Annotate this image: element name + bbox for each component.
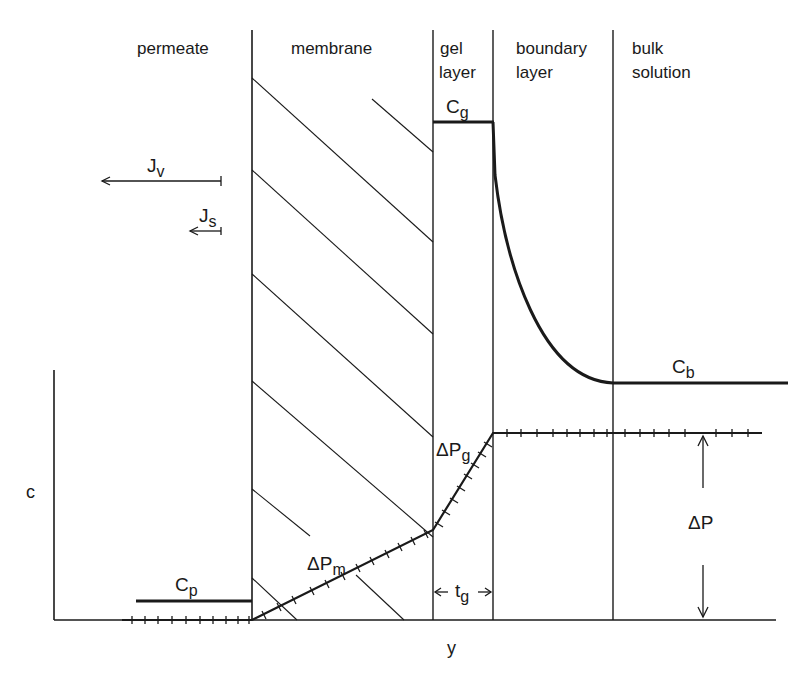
label-gel: gel	[440, 38, 463, 61]
label-permeate: permeate	[137, 38, 209, 61]
axis-label-y: y	[447, 636, 456, 660]
label-bulk-solution: solution	[632, 62, 691, 85]
axis-label-c: c	[26, 480, 35, 504]
symbol-jv: Jv	[147, 155, 165, 181]
symbol-delta-pg: ΔPg	[436, 439, 470, 465]
symbol-cg: Cg	[446, 96, 469, 122]
symbol-cb: Cb	[672, 356, 695, 382]
symbol-cp: Cp	[175, 574, 198, 600]
label-gel-layer: layer	[439, 62, 476, 85]
label-bulk: bulk	[632, 38, 663, 61]
symbol-delta-p: ΔP	[688, 512, 713, 534]
label-boundary: boundary	[516, 38, 587, 61]
membrane-hatching	[252, 78, 433, 620]
symbol-delta-pm: ΔPm	[307, 553, 346, 579]
label-boundary-layer: layer	[516, 62, 553, 85]
boundary-layer-curve	[493, 122, 613, 383]
concentration-pressure-diagram	[0, 0, 796, 679]
symbol-js: Js	[199, 205, 217, 231]
symbol-tg: tg	[455, 580, 469, 606]
label-membrane: membrane	[291, 38, 372, 61]
